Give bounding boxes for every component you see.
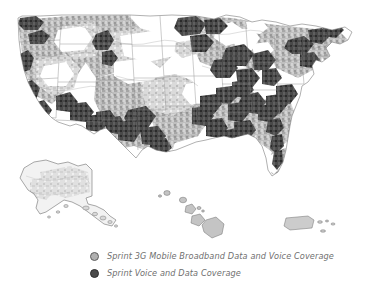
legend-item-3g: Sprint 3G Mobile Broadband Data and Voic… (90, 248, 360, 265)
legend-item-voice-data: Sprint Voice and Data Coverage (90, 265, 360, 282)
legend-label-3g: Sprint 3G Mobile Broadband Data and Voic… (107, 252, 334, 261)
legend-swatch-voice-data-icon (90, 269, 99, 278)
map-legend: Sprint 3G Mobile Broadband Data and Voic… (90, 248, 360, 282)
legend-swatch-3g-icon (90, 252, 99, 261)
legend-label-voice-data: Sprint Voice and Data Coverage (107, 269, 241, 278)
